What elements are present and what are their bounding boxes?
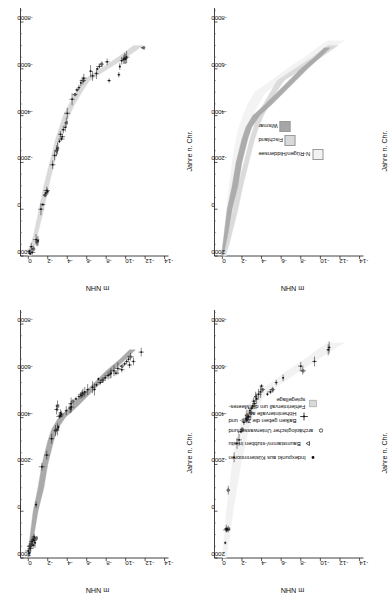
x-tick-label: -4000 [17,109,32,116]
x-tick-label: 0 [211,202,214,209]
legend-dot-icon [308,453,317,462]
legend-compare-label: Fischland [258,138,282,144]
x-tick-label: -6000 [17,364,32,371]
axes [20,8,168,259]
y-tick-label: 0 [222,560,225,567]
y-tick-label: -14 [164,560,173,567]
legend-compare: N-Rügen/HiddenseeFischlandWismar [258,121,323,160]
x-tick-label: -6000 [17,62,32,69]
legend-symbol-label: archäologischer Unterwasserfund [228,427,313,434]
y-tick-label: -8 [300,258,305,265]
y-tick-label: 0 [222,258,225,265]
panel-nruegen: N-Rügen/ Hiddensee Indexpunkt aus Küsten… [194,302,389,604]
y-tick-label: -4 [261,560,266,567]
y-tick-label: -8 [300,560,305,567]
y-tick-label: -4 [67,560,72,567]
x-tick-label: 2000 [17,551,30,558]
y-tick-label: -2 [241,560,246,567]
y-tick-label: 0 [28,560,31,567]
figure-canvas: Wismar 20000-2000-4000-6000-80000-2-4-6-… [0,0,389,604]
x-tick-label: 0 [211,504,214,511]
y-tick-label: -14 [359,258,368,265]
axis-title-x-vergleich: Jahre n. Chr. [379,130,388,171]
datapoints-wismar [25,348,144,555]
panel-fischland: Fischland 20000-2000-4000-6000-80000-2-4… [0,0,194,302]
panel-wismar: Wismar 20000-2000-4000-6000-80000-2-4-6-… [0,302,194,604]
legend-symbol-item: archäologischer Unterwasserfund [228,426,325,435]
legend-symbol-item: Fehlerintervall um die Meeres- spiegella… [228,399,317,408]
plot-area-wismar: 20000-2000-4000-6000-80000-2-4-6-8-10-12… [20,310,168,558]
x-tick-label: -8000 [211,15,226,22]
series-fischland [28,45,143,256]
axis-title-x-wismar: Jahre n. Chr. [184,432,193,473]
legend-symbol-item: Indexpunkt aus Küstenmooren [228,453,317,462]
y-tick-label: -4 [261,258,266,265]
x-tick-label: 0 [17,504,20,511]
panel-grid: Wismar 20000-2000-4000-6000-80000-2-4-6-… [0,0,389,604]
legend-symbol-label: Baumstamm/-stubben in situ [228,441,300,448]
legend-symbol-item: Balken geben die Zeit- und Höheninterval… [228,413,308,422]
plot-svg-fischland [20,8,168,256]
series-wismar [27,350,135,558]
axes [20,310,168,561]
x-tick-label: -4000 [211,411,226,418]
x-tick-label: 2000 [211,249,224,256]
y-tick-label: -12 [145,258,154,265]
y-tick-label: -12 [339,258,348,265]
legend-symbol-item: Baumstamm/-stubben in situ [228,440,312,449]
legend-band-icon [308,399,317,408]
y-tick-label: -10 [125,560,134,567]
legend-symbols: Indexpunkt aus KüstenmoorenBaumstamm/-st… [228,399,325,462]
plot-area-nruegen: Indexpunkt aus KüstenmoorenBaumstamm/-st… [214,310,363,558]
legend-cross-icon [299,413,308,422]
legend-symbol-label: Balken geben die Zeit- und Höheninterval… [228,410,296,424]
legend-symbol-label: Indexpunkt aus Küstenmooren [228,454,305,461]
x-tick-label: -8000 [17,317,32,324]
x-tick-label: -2000 [211,155,226,162]
y-tick-label: -8 [106,258,111,265]
x-tick-label: 2000 [211,551,224,558]
x-tick-label: -2000 [17,457,32,464]
plot-svg-wismar [20,310,168,558]
y-tick-label: -2 [47,560,52,567]
y-tick-label: -14 [359,560,368,567]
y-tick-label: -10 [320,258,329,265]
x-tick-label: -8000 [17,15,32,22]
legend-triangle-icon [303,440,312,449]
y-tick-label: -14 [164,258,173,265]
y-tick-label: -2 [241,258,246,265]
axis-title-y-wismar: m NHN [85,586,109,595]
x-tick-label: -6000 [211,62,226,69]
y-tick-label: -12 [339,560,348,567]
x-tick-label: -6000 [211,364,226,371]
legend-compare-item: Fischland [258,135,295,146]
x-tick-label: 0 [17,202,20,209]
legend-compare-item: Wismar [258,121,290,132]
datapoints-fischland [26,46,145,255]
x-tick-label: -4000 [17,411,32,418]
plot-area-vergleich: N-Rügen/HiddenseeFischlandWismar 20000-2… [214,8,363,256]
y-tick-label: -6 [281,560,286,567]
axis-title-x-nruegen: Jahre n. Chr. [379,432,388,473]
legend-compare-label: Wismar [258,124,277,130]
y-tick-label: -6 [281,258,286,265]
x-tick-label: -4000 [211,109,226,116]
legend-compare-label: N-Rügen/Hiddensee [258,152,310,158]
y-tick-label: -4 [67,258,72,265]
axis-title-y-vergleich: m NHN [280,284,304,293]
legend-circle-icon [316,426,325,435]
plot-area-fischland: 20000-2000-4000-6000-80000-2-4-6-8-10-12… [20,8,168,256]
panel-vergleich: Vergleich N-Rügen/HiddenseeFischlandWism… [194,0,389,302]
legend-compare-swatch [279,121,290,132]
x-tick-label: 2000 [17,249,30,256]
axis-title-x-fischland: Jahre n. Chr. [184,130,193,171]
x-tick-label: -2000 [211,457,226,464]
figure-frame: Wismar 20000-2000-4000-6000-80000-2-4-6-… [0,0,389,604]
axis-title-y-fischland: m NHN [85,284,109,293]
y-tick-label: -2 [47,258,52,265]
y-tick-label: 0 [28,258,31,265]
y-tick-label: -10 [320,560,329,567]
y-tick-label: -6 [86,258,91,265]
x-tick-label: -2000 [17,155,32,162]
legend-symbol-label: Fehlerintervall um die Meeres- spiegella… [228,397,305,411]
